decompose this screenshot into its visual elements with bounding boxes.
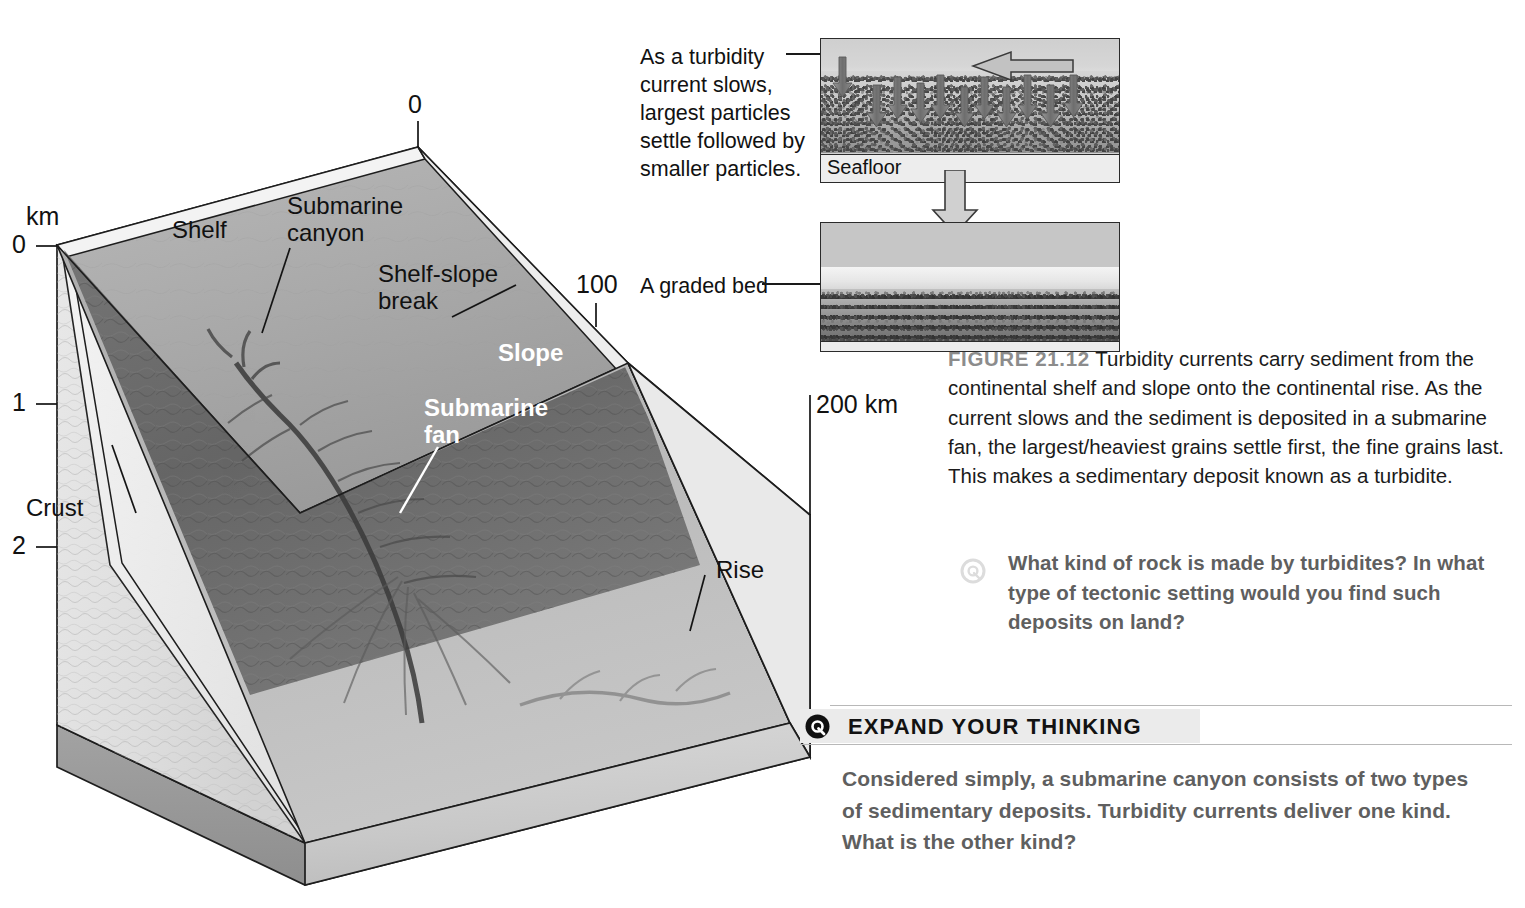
header-rule-bottom [800, 744, 1512, 745]
label-slope: Slope [498, 340, 563, 366]
distance-tick-100: 100 [576, 271, 618, 298]
label-submarine-canyon-line2: canyon [287, 220, 364, 246]
depth-tick-0: 0 [12, 231, 26, 258]
depth-tick-2: 2 [12, 532, 26, 559]
figure-caption: FIGURE 21.12 Turbidity currents carry se… [948, 344, 1508, 491]
current-flow-arrow [973, 52, 1073, 80]
turbidity-caption-line-2: current slows, [640, 72, 818, 100]
inline-question-text: What kind of rock is made by turbidites?… [1008, 548, 1508, 637]
turbidity-caption-line-1: As a turbidity [640, 44, 818, 72]
label-submarine-fan-line1: Submarine [424, 395, 548, 421]
cut-off-text-fragment [60, 0, 760, 5]
label-crust: Crust [26, 495, 83, 521]
turbidity-caption-line-4: settle followed by [640, 128, 818, 156]
label-rise: Rise [716, 557, 764, 583]
graded-bed-caption: A graded bed [640, 273, 800, 301]
expand-your-thinking-text: Considered simply, a submarine canyon co… [842, 763, 1482, 858]
header-rule-top [830, 705, 1512, 706]
figure-number: FIGURE 21.12 [948, 347, 1090, 370]
graded-bed-coarse-layer [821, 289, 1119, 341]
graded-bed-caption-leader [762, 283, 824, 285]
inline-question: What kind of rock is made by turbidites?… [960, 548, 1508, 637]
label-shelf: Shelf [172, 217, 227, 243]
question-circle-icon [960, 558, 986, 584]
question-circle-icon [804, 713, 831, 740]
turbidity-caption-leader [786, 53, 822, 55]
distance-tick-200km: 200 km [816, 391, 898, 418]
label-submarine-fan-line2: fan [424, 422, 460, 448]
turbidity-caption-line-3: largest particles [640, 100, 818, 128]
turbidity-current-panel: Seafloor [820, 38, 1120, 183]
depth-axis-unit: km [26, 203, 59, 230]
graded-bed-water [821, 223, 1119, 272]
turbidity-panels-group: As a turbidity current slows, largest pa… [640, 30, 1140, 360]
label-submarine-canyon-line1: Submarine [287, 193, 403, 219]
label-shelf-slope-break-line1: Shelf-slope [378, 261, 498, 287]
label-shelf-slope-break-line2: break [378, 288, 438, 314]
graded-bed-panel [820, 222, 1120, 352]
seafloor-label: Seafloor [827, 156, 902, 179]
expand-your-thinking-title: EXPAND YOUR THINKING [848, 714, 1142, 740]
turbidity-caption-line-5: smaller particles. [640, 156, 818, 184]
expand-your-thinking-header: EXPAND YOUR THINKING [800, 705, 1512, 747]
distance-tick-0: 0 [408, 91, 422, 118]
expand-your-thinking-block: EXPAND YOUR THINKING Considered simply, … [800, 705, 1512, 858]
depth-tick-1: 1 [12, 389, 26, 416]
turbidity-caption: As a turbidity current slows, largest pa… [640, 44, 818, 184]
